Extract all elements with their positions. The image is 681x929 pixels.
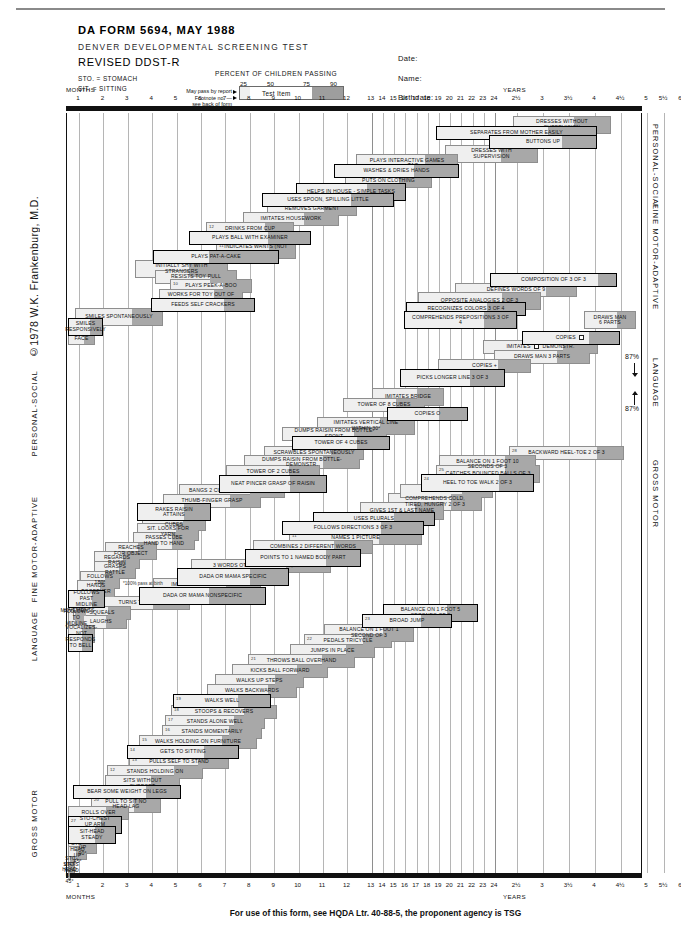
grid-line — [621, 113, 622, 873]
milestone-bar[interactable]: SIT-HEAD STEADY — [68, 826, 116, 844]
months-label-bottom: MONTHS — [66, 893, 95, 900]
milestone-bar[interactable]: COPIES O — [387, 407, 468, 421]
milestone-bar[interactable]: COMPOSITION OF 3 OF 3 — [490, 273, 617, 287]
axis-tick-month-10: 10 — [294, 94, 301, 101]
axis-tick-month-17: 17 — [412, 881, 419, 888]
right-label-gross-motor: GROSS MOTOR — [651, 460, 660, 528]
footnote-number: 16 — [165, 727, 170, 733]
axis-tick-month-18: 18 — [423, 881, 430, 888]
milestone-bar[interactable]: DRAWS MAN 6 PARTS — [584, 311, 636, 329]
milestone-bar[interactable]: 14GETS TO SITTING — [127, 745, 239, 759]
form-subtitle: DENVER DEVELOPMENTAL SCREENING TEST — [78, 42, 309, 52]
milestone-bar[interactable]: BEAR SOME WEIGHT ON LEGS — [73, 785, 181, 799]
ddst-form-page: DA FORM 5694, MAY 1988 DENVER DEVELOPMEN… — [0, 0, 681, 929]
milestone-label: DRAWS MAN 6 PARTS — [585, 315, 635, 327]
milestone-bar[interactable]: USES SPOON, SPILLING LITTLE — [262, 193, 394, 207]
axis-tick-month-12: 12 — [343, 881, 350, 888]
milestone-label: PEDALS TRICYCLE — [317, 638, 380, 644]
milestone-bar[interactable]: NEAT PINCER GRASP OF RAISIN — [219, 475, 327, 493]
axis-tick-year-4: 4 — [592, 94, 595, 101]
milestone-bar[interactable]: FOLLOWS DIRECTIONS 3 OF 3 — [282, 521, 424, 535]
axis-tick-month-4: 4 — [149, 94, 152, 101]
milestone-bar[interactable]: TOWER OF 4 CUBES — [292, 436, 390, 450]
milestone-bar[interactable]: COPIES — [522, 331, 620, 345]
milestone-label: DRESSES WITH SUPERVISION — [446, 148, 537, 160]
milestone-label: COMPREHENDS COLD, TIRED, HUNGRY 2 OF 3 — [389, 496, 481, 508]
axis-tick-month-24: 24 — [491, 94, 498, 101]
milestone-bar[interactable]: 19WALKS WELL — [173, 694, 271, 708]
bar-90th-percentile-shade — [589, 332, 619, 344]
milestone-bar[interactable]: 23BROAD JUMP — [362, 614, 452, 628]
milestone-label: BUTTONS UP — [519, 139, 567, 145]
milestone-label: IMITATES BRIDGE — [378, 394, 438, 400]
axis-tick-month-15: 15 — [390, 881, 397, 888]
axis-tick-month-23: 23 — [479, 881, 486, 888]
axis-tick-month-3: 3 — [125, 881, 128, 888]
milestone-bar[interactable]: DADA OR MAMA NONSPECIFIC — [139, 587, 266, 605]
footnote-number: 21 — [251, 656, 256, 662]
axis-tick-month-16: 16 — [401, 881, 408, 888]
milestone-label: NEAT PINCER GRASP OF RAISIN — [224, 481, 322, 487]
axis-tick-year-2½: 2½ — [512, 94, 521, 101]
milestone-bar[interactable]: STO-HEAD UP 45° — [68, 866, 71, 880]
milestone-label: DADA OR MAMA SPECIFIC — [192, 574, 273, 580]
axis-tick-month-17: 17 — [412, 94, 419, 101]
milestone-bar[interactable]: PICKS LONGER LINE 3 OF 3 — [400, 369, 505, 387]
grid-line — [372, 113, 373, 873]
milestone-label: PLAYS PEEK-A-BOO — [178, 283, 244, 289]
milestone-bar[interactable]: WASHES & DRIES HANDS — [334, 164, 459, 178]
milestone-label: SIT-HEAD STEADY — [69, 829, 115, 841]
axis-tick-month-21: 21 — [457, 881, 464, 888]
footnote-number: 27 — [71, 818, 76, 824]
axis-tick-month-5: 5 — [174, 881, 177, 888]
grid-line — [664, 113, 665, 873]
grid-line — [103, 113, 104, 873]
milestone-bar[interactable]: COMPREHENDS PREPOSITIONS 3 OF 4 — [404, 311, 517, 329]
axis-bar-top — [66, 106, 642, 111]
milestone-bar[interactable]: RESPONDS TO BELL — [68, 634, 93, 652]
grid-line — [595, 113, 596, 873]
copyright-label: ©1978 W.K. Frankenburg, M.D. — [28, 196, 40, 358]
milestone-label: SQUEALS — [82, 610, 121, 616]
footnote-number: 19 — [176, 696, 181, 702]
axis-tick-month-14: 14 — [379, 881, 386, 888]
milestone-bar[interactable]: PLAYS BALL WITH EXAMINER — [189, 231, 311, 245]
axis-tick-month-7: 7 — [223, 881, 226, 888]
axis-tick-month-21: 21 — [457, 94, 464, 101]
milestone-label: DADA OR MAMA NONSPECIFIC — [156, 593, 249, 599]
milestone-label: COMPOSITION OF 3 OF 3 — [514, 277, 593, 283]
milestone-bar[interactable]: DADA OR MAMA SPECIFIC — [177, 568, 289, 586]
milestone-bar[interactable]: POINTS TO 1 NAMED BODY PART — [245, 549, 361, 567]
milestone-bar[interactable]: FOLLOWS PAST MIDLINE — [68, 590, 105, 608]
axis-tick-month-14: 14 — [379, 94, 386, 101]
left-label-personal-social: PERSONAL-SOCIAL — [30, 370, 39, 456]
axis-tick-month-20: 20 — [446, 94, 453, 101]
axis-tick-month-8: 8 — [247, 881, 250, 888]
footnote-number: 14 — [130, 747, 135, 753]
axis-tick-month-9: 9 — [271, 881, 274, 888]
axis-tick-month-5: 5 — [174, 94, 177, 101]
footer-text: For use of this form, see HQDA Ltr. 40-8… — [160, 908, 521, 918]
milestone-bar[interactable]: FEEDS SELF CRACKERS — [151, 298, 255, 312]
left-label-gross-motor: GROSS MOTOR — [30, 789, 39, 857]
milestone-label: BACKWARD HEEL-TOE 2 OF 3 — [521, 450, 612, 456]
footnote-number: 24 — [424, 476, 429, 482]
milestone-label: REMOVES GARMENT — [278, 206, 347, 212]
grid-line — [517, 113, 518, 873]
axis-tick-month-9: 9 — [271, 94, 274, 101]
field-date[interactable]: Date: — [398, 54, 437, 63]
milestone-label: BROAD JUMP — [383, 618, 432, 624]
milestone-bar[interactable]: SMILES RESPONSIVELY — [68, 318, 103, 336]
right-label-fine-motor: FINE MOTOR-ADAPTIVE — [651, 204, 660, 310]
axis-tick-month-4: 4 — [149, 881, 152, 888]
axis-tick-month-13: 13 — [367, 94, 374, 101]
milestone-label: WALKS HOLDING ON FURNITURE — [148, 739, 248, 745]
milestone-bar[interactable]: RAKES RAISIN ATTAINS — [137, 503, 211, 521]
milestone-bar[interactable]: 24HEEL TO TOE WALK 2 OF 3 — [421, 474, 534, 492]
milestone-bar[interactable]: BUTTONS UP — [489, 135, 597, 149]
field-name[interactable]: Name: — [398, 74, 437, 83]
axis-tick-month-6: 6 — [198, 881, 201, 888]
square-glyph-icon — [534, 344, 539, 349]
milestone-label: HEEL TO TOE WALK 2 OF 3 — [436, 480, 519, 486]
milestone-bar[interactable]: PLAYS PAT-A-CAKE — [153, 250, 279, 264]
